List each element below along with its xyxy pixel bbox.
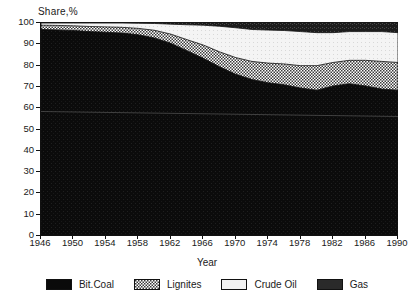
x-tick-1982: 1982 bbox=[315, 238, 349, 248]
legend-item-bitcoal[interactable]: Bit.Coal bbox=[46, 279, 114, 290]
legend-swatch-gas bbox=[317, 279, 343, 290]
x-tick-1990: 1990 bbox=[380, 238, 414, 248]
legend-label-gas: Gas bbox=[350, 279, 368, 290]
y-tick-100: 100 bbox=[0, 17, 34, 27]
x-tick-1978: 1978 bbox=[283, 238, 317, 248]
legend-item-lignites[interactable]: Lignites bbox=[134, 279, 201, 290]
stacked-area-chart: Share,% 0102030405060708090100 194619501… bbox=[0, 0, 414, 307]
x-tick-1946: 1946 bbox=[23, 238, 57, 248]
plot-area bbox=[40, 22, 398, 236]
x-tick-1954: 1954 bbox=[88, 238, 122, 248]
x-axis-title: Year bbox=[0, 257, 414, 268]
legend-swatch-bitcoal bbox=[46, 279, 72, 290]
x-tick-1970: 1970 bbox=[218, 238, 252, 248]
x-tick-1974: 1974 bbox=[250, 238, 284, 248]
legend-label-bitcoal: Bit.Coal bbox=[79, 279, 114, 290]
x-tick-1958: 1958 bbox=[120, 238, 154, 248]
legend-label-crudeoil: Crude Oil bbox=[254, 279, 296, 290]
legend-item-crudeoil[interactable]: Crude Oil bbox=[221, 279, 296, 290]
x-tick-1966: 1966 bbox=[185, 238, 219, 248]
x-tick-1962: 1962 bbox=[153, 238, 187, 248]
y-axis-title: Share,% bbox=[38, 6, 78, 17]
y-tick-20: 20 bbox=[0, 187, 34, 197]
y-tick-70: 70 bbox=[0, 81, 34, 91]
x-tick-1986: 1986 bbox=[348, 238, 382, 248]
y-tick-50: 50 bbox=[0, 124, 34, 134]
y-tick-80: 80 bbox=[0, 60, 34, 70]
legend-item-gas[interactable]: Gas bbox=[317, 279, 368, 290]
y-tick-60: 60 bbox=[0, 102, 34, 112]
y-tick-10: 10 bbox=[0, 209, 34, 219]
y-tick-30: 30 bbox=[0, 166, 34, 176]
y-tick-40: 40 bbox=[0, 145, 34, 155]
legend-swatch-lignites bbox=[134, 279, 160, 290]
legend-swatch-crudeoil bbox=[221, 279, 247, 290]
y-tick-90: 90 bbox=[0, 38, 34, 48]
area-series-svg bbox=[41, 22, 398, 235]
chart-legend: Bit.Coal Lignites Crude Oil Gas bbox=[0, 279, 414, 290]
x-tick-1950: 1950 bbox=[55, 238, 89, 248]
legend-label-lignites: Lignites bbox=[167, 279, 201, 290]
